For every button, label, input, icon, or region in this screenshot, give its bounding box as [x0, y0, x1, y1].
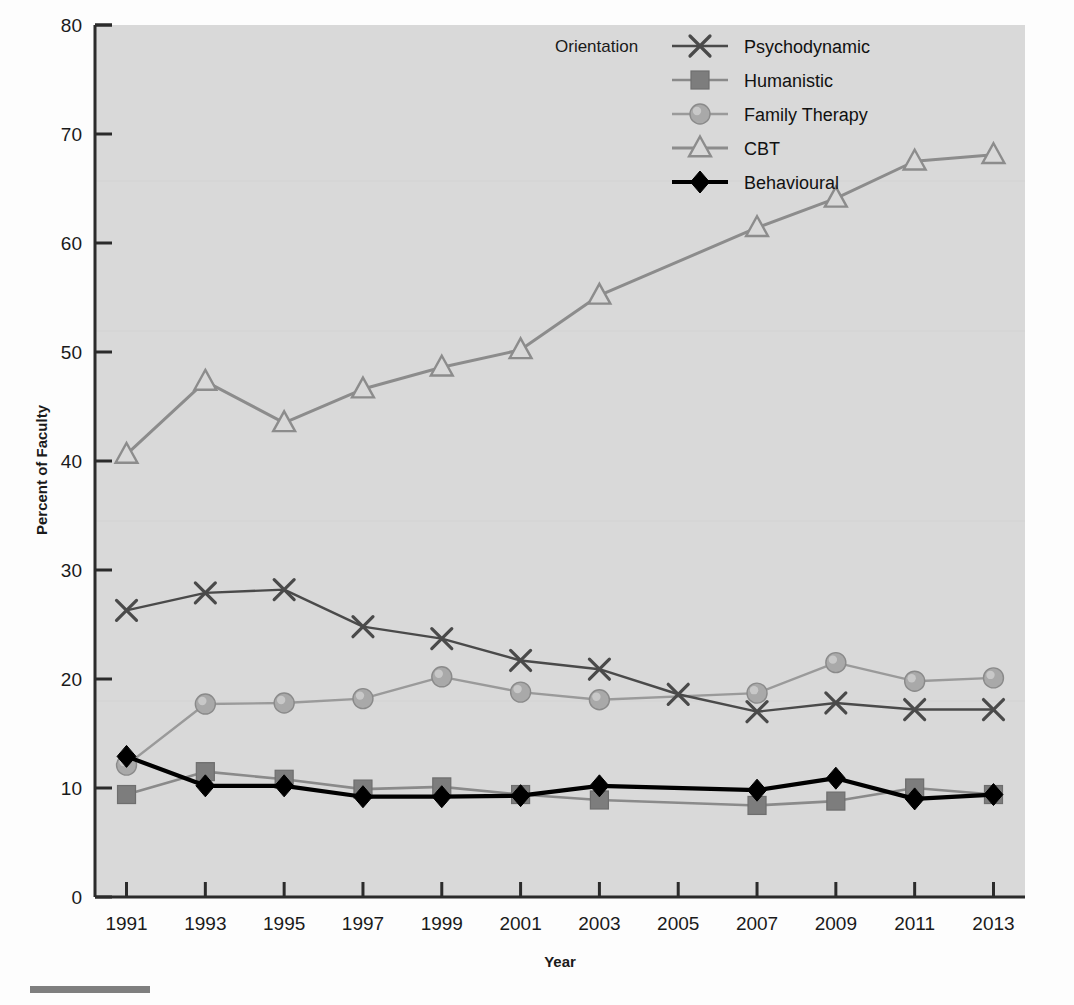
legend-entry-label: CBT [744, 139, 780, 159]
legend-entry-family-therapy[interactable]: Family Therapy [672, 104, 868, 125]
legend-entry-behavioural[interactable]: Behavioural [672, 171, 839, 193]
footer-rule [30, 986, 150, 993]
x-tick-label: 1991 [105, 913, 147, 934]
y-tick-label: 60 [61, 233, 82, 254]
circle-marker [983, 668, 1003, 688]
circle-marker [353, 689, 373, 709]
y-tick-label: 0 [71, 887, 82, 908]
circle-marker [747, 683, 767, 703]
square-marker [691, 71, 709, 89]
x-tick-label: 1997 [342, 913, 384, 934]
y-tick-label: 50 [61, 342, 82, 363]
x-tick-label: 1995 [263, 913, 305, 934]
figure-canvas: 01020304050607080 1991199319951997199920… [0, 0, 1074, 1005]
legend-entry-label: Psychodynamic [744, 37, 870, 57]
legend-entry-label: Family Therapy [744, 105, 868, 125]
circle-marker [511, 682, 531, 702]
x-tick-label: 2013 [972, 913, 1014, 934]
plot-area-background [95, 25, 1025, 897]
y-tick-label: 70 [61, 124, 82, 145]
x-tick-label: 2001 [499, 913, 541, 934]
circle-marker [826, 653, 846, 673]
circle-marker [589, 690, 609, 710]
line-chart-figure: 01020304050607080 1991199319951997199920… [0, 0, 1074, 1005]
legend-entry-humanistic[interactable]: Humanistic [672, 71, 833, 91]
circle-marker [690, 104, 710, 124]
legend-entry-label: Behavioural [744, 173, 839, 193]
square-marker [118, 786, 136, 804]
y-tick-label: 30 [61, 560, 82, 581]
x-axis-title: Year [544, 953, 576, 970]
square-marker [827, 792, 845, 810]
y-tick-label: 40 [61, 451, 82, 472]
x-tick-label: 1999 [421, 913, 463, 934]
y-tick-label: 10 [61, 778, 82, 799]
x-tick-label: 2005 [657, 913, 699, 934]
circle-marker [274, 693, 294, 713]
circle-marker [432, 667, 452, 687]
x-tick-label: 2011 [894, 913, 935, 934]
circle-marker [195, 694, 215, 714]
legend-entry-label: Humanistic [744, 71, 833, 91]
y-axis-title: Percent of Faculty [33, 404, 50, 535]
x-tick-label: 2009 [815, 913, 857, 934]
y-tick-label: 80 [61, 15, 82, 36]
x-tick-label: 1993 [184, 913, 226, 934]
legend-title: Orientation [555, 37, 638, 56]
x-tick-label: 2007 [736, 913, 778, 934]
circle-marker [905, 671, 925, 691]
x-tick-label: 2003 [578, 913, 620, 934]
y-tick-label: 20 [61, 669, 82, 690]
